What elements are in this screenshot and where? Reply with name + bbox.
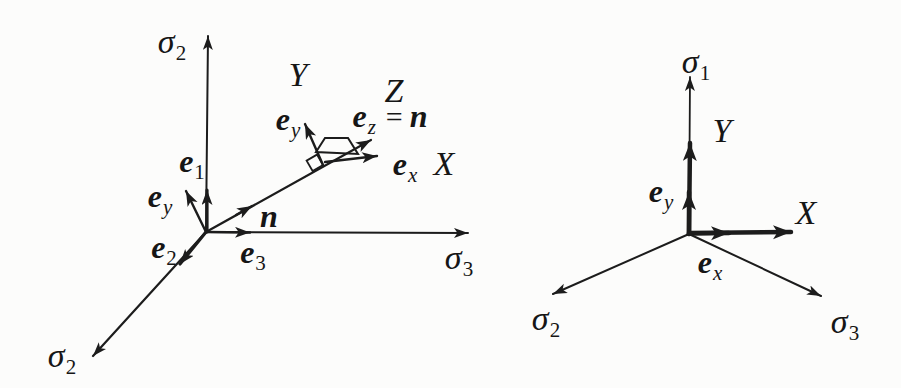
equals-sign: =: [386, 100, 403, 133]
label-left-frame-X: X: [434, 147, 455, 181]
label-left-e1: e1: [179, 145, 205, 177]
vector-glyph: n: [410, 98, 428, 134]
label-right-X: X: [796, 196, 817, 230]
sigma-glyph: σ: [48, 337, 65, 374]
vector-glyph: e: [352, 98, 366, 134]
label-left-frame-ey: ey: [276, 103, 301, 135]
vector-glyph: e: [649, 173, 663, 209]
sigma-glyph: σ: [831, 303, 848, 340]
diagram-canvas: [0, 0, 901, 388]
label-left-sigma3: σ3: [445, 241, 473, 275]
left-e3-vector-arrow: [206, 232, 250, 233]
stress-coordinate-figure: σ2 σ2 σ3 e1 ey e2 e3 n Y Z ez=n ey ex X …: [0, 0, 901, 388]
subscript: 3: [463, 257, 474, 281]
label-left-sigma2-bottom: σ2: [48, 339, 76, 373]
left-frame-ex-vector-arrow: [325, 156, 377, 162]
label-right-sigma3: σ3: [831, 305, 859, 339]
label-left-ey-origin: ey: [148, 180, 173, 212]
sigma-glyph: σ: [532, 300, 549, 337]
sigma-glyph: σ: [158, 23, 175, 60]
label-right-Y: Y: [713, 114, 732, 148]
subscript: y: [163, 195, 172, 219]
left-n-vector-arrow: [236, 206, 252, 215]
subscript: 2: [550, 318, 561, 342]
subscript: 1: [194, 160, 205, 184]
vector-glyph: e: [179, 143, 193, 179]
label-left-e2: e2: [151, 231, 177, 263]
subscript: y: [664, 190, 673, 214]
label-right-ex: ex: [698, 246, 723, 278]
label-left-frame-ex: ex: [393, 148, 418, 180]
subscript: x: [408, 163, 417, 187]
vector-glyph: e: [148, 178, 162, 214]
subscript: 3: [849, 321, 860, 345]
vector-glyph: e: [151, 229, 165, 265]
axis-glyph: X: [796, 194, 817, 231]
axis-glyph: Y: [713, 112, 732, 149]
sigma-glyph: σ: [445, 239, 462, 276]
left-e2-vector-arrow: [180, 232, 206, 264]
subscript: 3: [255, 251, 266, 275]
vector-glyph: e: [240, 234, 254, 270]
axis-glyph: Y: [289, 56, 308, 93]
right-sigma2-axis: [553, 234, 689, 294]
vector-glyph: e: [393, 146, 407, 182]
axis-glyph: X: [434, 145, 455, 182]
subscript: y: [291, 118, 300, 142]
label-left-frame-ez-equals-n: ez=n: [352, 100, 427, 132]
label-right-ey: ey: [649, 175, 674, 207]
vector-glyph: e: [276, 101, 290, 137]
label-left-frame-Y: Y: [289, 58, 308, 92]
label-left-sigma2-top: σ2: [158, 25, 186, 59]
vector-glyph: n: [260, 198, 278, 234]
label-left-n: n: [260, 200, 278, 232]
subscript: 1: [700, 61, 711, 85]
subscript: 2: [166, 246, 177, 270]
label-left-e3: e3: [240, 236, 266, 268]
sigma-glyph: σ: [682, 43, 699, 80]
subscript: 2: [176, 41, 187, 65]
subscript: 2: [66, 355, 77, 379]
subscript: x: [713, 261, 722, 285]
vector-glyph: e: [698, 244, 712, 280]
label-right-sigma1: σ1: [682, 45, 710, 79]
right-ex-vector-arrow: [689, 233, 729, 234]
label-right-sigma2: σ2: [532, 302, 560, 336]
left-ey-origin-vector-arrow: [186, 191, 206, 232]
subscript: z: [368, 115, 376, 139]
